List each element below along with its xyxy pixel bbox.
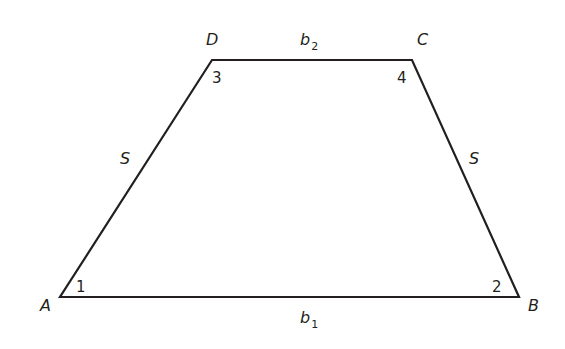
angle-label-4: 4: [397, 71, 407, 86]
side-label-b2-base: b: [300, 30, 310, 49]
vertex-label-a: A: [40, 298, 51, 314]
trapezoid-diagram: A B C D 1 2 3 4 b2 b1 S S: [0, 0, 565, 349]
trapezoid-shape: [0, 0, 565, 349]
side-label-b1-base: b: [300, 308, 310, 327]
angle-label-1: 1: [76, 280, 86, 295]
vertex-label-d: D: [206, 32, 218, 48]
side-label-left-s: S: [120, 151, 130, 167]
vertex-label-c: C: [417, 32, 428, 48]
side-label-right-s: S: [469, 151, 479, 167]
side-label-b2-subscript: 2: [311, 40, 318, 53]
vertex-label-b: B: [528, 298, 539, 314]
angle-label-3: 3: [212, 71, 222, 86]
side-label-b1: b1: [300, 310, 318, 326]
angle-label-2: 2: [492, 280, 502, 295]
side-label-b2: b2: [300, 32, 318, 48]
side-label-b1-subscript: 1: [311, 318, 318, 331]
